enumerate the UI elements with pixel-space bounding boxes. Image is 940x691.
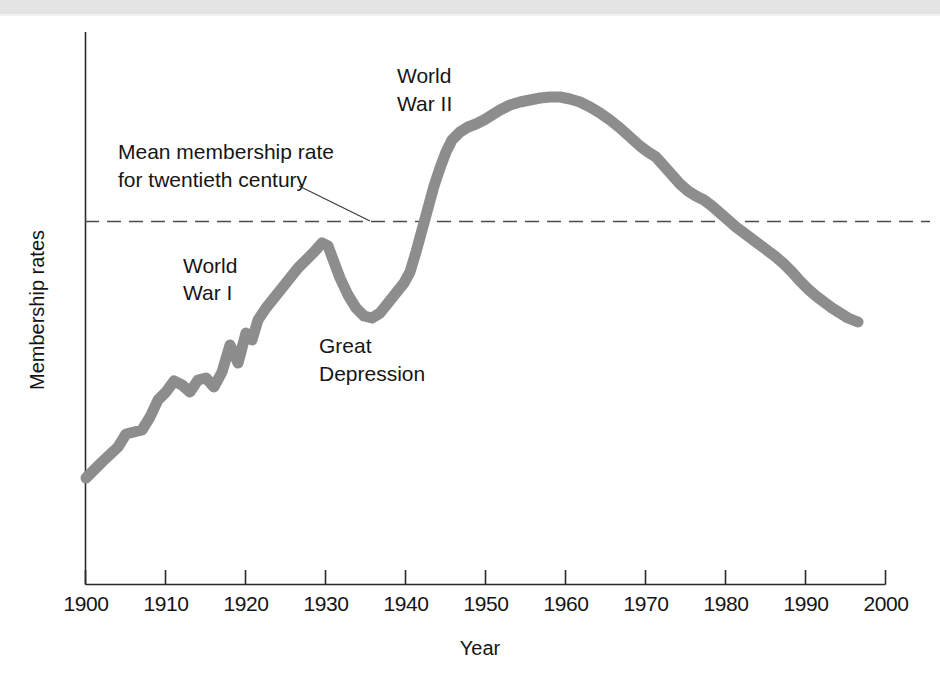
ww1-label-line1: World [183, 254, 237, 277]
x-axis-ticks [86, 570, 886, 585]
tick-label-1990: 1990 [783, 592, 828, 615]
depression-label-line2: Depression [319, 362, 425, 385]
chart-figure: 1900 1910 1920 1930 1940 1950 1960 1970 … [0, 0, 940, 691]
tick-label-1910: 1910 [143, 592, 188, 615]
line-chart-canvas: 1900 1910 1920 1930 1940 1950 1960 1970 … [0, 0, 940, 691]
tick-label-1980: 1980 [703, 592, 748, 615]
tick-label-1970: 1970 [623, 592, 668, 615]
mean-callout-leader-line [299, 186, 370, 221]
mean-callout-line1: Mean membership rate [118, 140, 334, 163]
tick-label-2000: 2000 [863, 592, 908, 615]
annotation-great-depression: Great Depression [319, 334, 425, 385]
annotation-mean-membership-callout: Mean membership rate for twentieth centu… [118, 140, 334, 191]
tick-label-1930: 1930 [303, 592, 348, 615]
annotation-world-war-two: World War II [397, 64, 452, 115]
annotation-world-war-one: World War I [183, 254, 237, 304]
ww2-label-line2: War II [397, 92, 452, 115]
tick-label-1900: 1900 [63, 592, 108, 615]
tick-label-1920: 1920 [223, 592, 268, 615]
depression-label-line1: Great [319, 334, 372, 357]
y-axis-title: Membership rates [26, 230, 48, 390]
x-axis-tick-labels: 1900 1910 1920 1930 1940 1950 1960 1970 … [63, 592, 908, 615]
tick-label-1950: 1950 [463, 592, 508, 615]
ww1-label-line2: War I [183, 281, 232, 304]
mean-callout-line2: for twentieth century [118, 168, 308, 191]
ww2-label-line1: World [397, 64, 451, 87]
x-axis-title: Year [460, 637, 501, 659]
tick-label-1960: 1960 [543, 592, 588, 615]
tick-label-1940: 1940 [383, 592, 428, 615]
